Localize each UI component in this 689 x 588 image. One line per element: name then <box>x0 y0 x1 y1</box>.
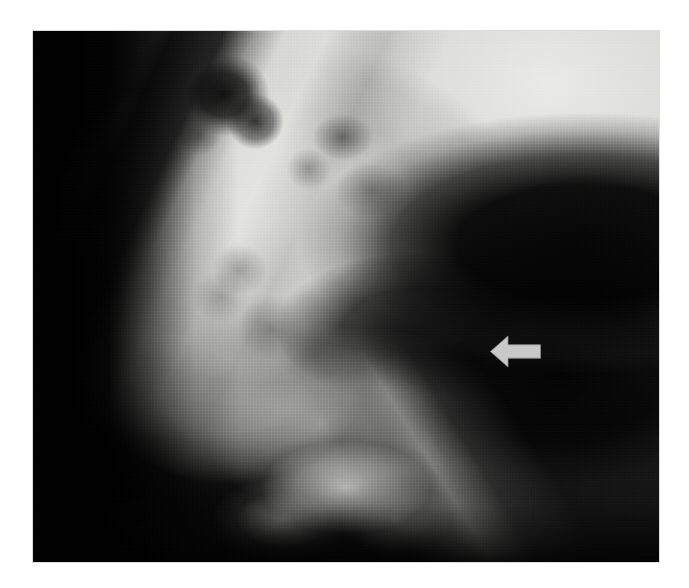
page-canvas <box>0 0 689 588</box>
bottom-dark-background-band <box>33 31 659 562</box>
zygomatic-arch-band <box>33 31 659 562</box>
soft-tissue-fog-region <box>33 31 659 562</box>
radiograph-base-field <box>33 31 659 562</box>
air-cell-lucencies <box>33 31 659 562</box>
ramus-cortical-edge <box>33 31 659 562</box>
glenoid-fossa-dark-wedge <box>33 31 659 562</box>
halftone-dot-texture <box>33 31 659 562</box>
mandibular-body-structures <box>33 31 659 562</box>
radiograph-image <box>33 31 659 562</box>
indicated-cortical-line <box>33 31 659 562</box>
film-grain-texture <box>33 31 659 562</box>
petrous-mastoid-bone-mass <box>33 31 659 562</box>
lower-cortical-streak <box>33 31 659 562</box>
left-dark-background-column <box>33 31 659 562</box>
arrow-marker-icon <box>486 332 544 370</box>
